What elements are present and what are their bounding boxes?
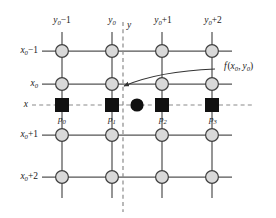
column-label-sub: 0 <box>57 19 60 26</box>
sample-label-p3: p3 <box>209 115 217 124</box>
row-label-tail: 1 <box>33 45 38 55</box>
row-label-text: x <box>20 129 24 139</box>
sample-label-sub: 3 <box>214 118 217 125</box>
sample-label-text: p <box>209 114 214 124</box>
grid-node <box>206 171 219 184</box>
grid-node <box>56 45 69 58</box>
figure-canvas <box>0 0 276 218</box>
grid-node <box>56 129 69 142</box>
function-arg2-sub: 0 <box>247 65 250 72</box>
column-label-tail: 1 <box>66 15 71 25</box>
sample-label-p0: p0 <box>58 115 66 124</box>
column-label-tail: 1 <box>167 15 172 25</box>
grid-node <box>106 129 119 142</box>
sample-label-text: p <box>58 114 63 124</box>
axis-label-y-text: y <box>127 20 131 30</box>
column-label-tail: 2 <box>217 15 222 25</box>
grid-node <box>156 45 169 58</box>
query-point-dot <box>130 98 143 111</box>
function-arg2-base: y <box>242 61 246 71</box>
column-label-y0-plus-1: y0+1 <box>154 16 172 26</box>
sample-square-p3 <box>206 99 219 112</box>
axis-label-y: y <box>127 21 131 31</box>
row-label-tail: 1 <box>33 129 38 139</box>
sample-label-text: p <box>108 114 113 124</box>
row-label-x0-minus-1: x0−1 <box>0 46 38 56</box>
grid-vertical-lines <box>62 32 212 198</box>
column-label-sub: 0 <box>208 19 211 26</box>
row-label-sub: 0 <box>25 49 28 56</box>
grid-node <box>206 78 219 91</box>
column-label-sub: 0 <box>158 19 161 26</box>
row-label-x0-plus-2: x0+2 <box>0 172 38 182</box>
row-label-text: x <box>20 45 24 55</box>
column-label-y0-minus-1: y0−1 <box>53 16 71 26</box>
function-value-label: f (x0, y0) <box>224 62 253 72</box>
row-label-x0-plus-1: x0+1 <box>0 130 38 140</box>
axis-label-x-text: x <box>24 99 28 109</box>
column-label-sub: 0 <box>112 19 115 26</box>
grid-node <box>206 45 219 58</box>
sample-square-p2 <box>156 99 169 112</box>
grid-node <box>156 129 169 142</box>
sample-label-p2: p2 <box>159 115 167 124</box>
sample-label-p1: p1 <box>108 115 116 124</box>
sample-label-sub: 0 <box>63 118 66 125</box>
grid-node-x0-y0 <box>106 78 119 91</box>
grid-node <box>56 78 69 91</box>
grid-node <box>106 171 119 184</box>
sample-square-p0 <box>56 99 69 112</box>
row-label-sub: 0 <box>25 175 28 182</box>
grid-node <box>106 45 119 58</box>
row-label-x0: x0 <box>0 79 38 89</box>
column-label-y0: y0 <box>108 16 116 26</box>
grid-node <box>206 129 219 142</box>
row-label-sub: 0 <box>35 82 38 89</box>
grid-node <box>56 171 69 184</box>
sample-label-sub: 2 <box>164 118 167 125</box>
row-label-tail: 2 <box>33 171 38 181</box>
sample-label-sub: 1 <box>113 118 116 125</box>
sample-square-p1 <box>106 99 119 112</box>
row-label-text: x <box>20 171 24 181</box>
axis-label-x: x <box>12 100 28 110</box>
grid-node <box>156 171 169 184</box>
interpolation-grid-figure: y0−1 y0 y0+1 y0+2 x0−1 x0 x0+1 x0+2 x y … <box>0 0 276 218</box>
function-arg1-sub: 0 <box>235 65 238 72</box>
column-label-y0-plus-2: y0+2 <box>204 16 222 26</box>
grid-node <box>156 78 169 91</box>
sample-label-text: p <box>159 114 164 124</box>
row-label-sub: 0 <box>25 133 28 140</box>
grid-nodes <box>56 45 219 184</box>
